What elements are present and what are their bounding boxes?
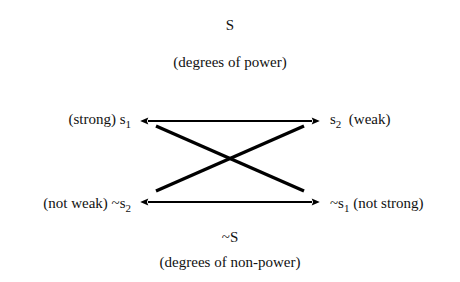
square-of-opposition-diagram: S (degrees of power) (strong) s1 s2 (wea… bbox=[0, 0, 460, 282]
diagram-edges bbox=[0, 0, 460, 282]
